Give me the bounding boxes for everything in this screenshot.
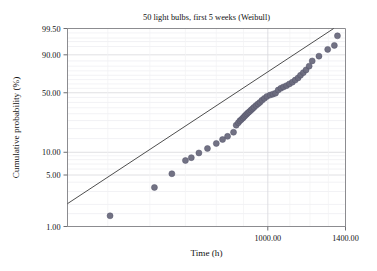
weibull-probability-plot: 1.005.0010.0050.0090.0099.501000.001400.… bbox=[0, 0, 377, 271]
data-point bbox=[225, 133, 231, 139]
data-point bbox=[188, 155, 194, 161]
y-axis-label: Cumulative probability (%) bbox=[11, 77, 21, 179]
data-point bbox=[182, 157, 188, 163]
y-tick-label: 50.00 bbox=[42, 89, 60, 98]
data-point bbox=[331, 42, 337, 48]
y-tick-label: 5.00 bbox=[46, 171, 60, 180]
data-point bbox=[325, 46, 331, 52]
data-point bbox=[151, 184, 157, 190]
y-tick-label: 10.00 bbox=[42, 148, 60, 157]
y-tick-label: 1.00 bbox=[46, 223, 60, 232]
chart-svg: 1.005.0010.0050.0090.0099.501000.001400.… bbox=[0, 0, 377, 271]
y-tick-label: 90.00 bbox=[42, 51, 60, 60]
data-point bbox=[316, 53, 322, 59]
chart-title: 50 light bulbs, first 5 weeks (Weibull) bbox=[143, 13, 270, 22]
data-point bbox=[213, 140, 219, 146]
data-point bbox=[231, 129, 237, 135]
data-point bbox=[107, 213, 113, 219]
data-point bbox=[309, 58, 315, 64]
data-point bbox=[334, 33, 340, 39]
data-point bbox=[169, 171, 175, 177]
y-tick-label: 99.50 bbox=[42, 25, 60, 34]
data-point bbox=[196, 150, 202, 156]
x-tick-label: 1000.00 bbox=[255, 234, 282, 243]
x-axis-label: Time (h) bbox=[190, 248, 222, 258]
x-tick-label: 1400.00 bbox=[332, 234, 359, 243]
data-point bbox=[204, 145, 210, 151]
